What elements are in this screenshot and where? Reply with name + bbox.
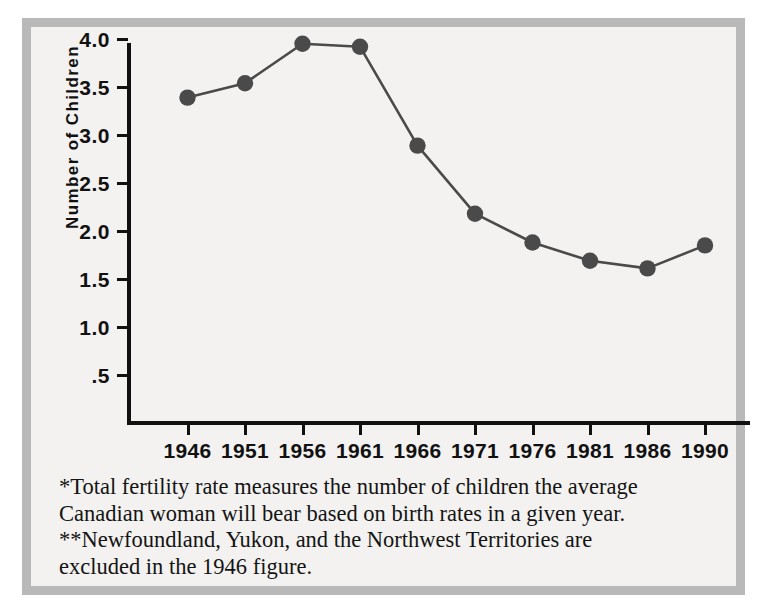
data-point-marker [179, 89, 195, 105]
footnote-line-4: excluded in the 1946 figure. [59, 554, 719, 581]
footnote-line-1: *Total fertility rate measures the numbe… [59, 474, 719, 501]
data-point-marker [237, 75, 253, 91]
data-point-marker [352, 39, 368, 55]
footnote-block: *Total fertility rate measures the numbe… [59, 474, 719, 580]
series-markers [179, 36, 713, 277]
data-point-marker [524, 234, 540, 250]
figure-frame: Number of Children 4.03.53.02.52.01.51.0… [22, 18, 745, 595]
data-point-marker [467, 206, 483, 222]
chart-page: Number of Children 4.03.53.02.52.01.51.0… [0, 0, 768, 613]
data-point-marker [294, 36, 310, 52]
figure-canvas: Number of Children 4.03.53.02.52.01.51.0… [31, 27, 736, 586]
data-point-marker [697, 237, 713, 253]
footnote-line-2: Canadian woman will bear based on birth … [59, 501, 719, 528]
footnote-line-3: **Newfoundland, Yukon, and the Northwest… [59, 527, 719, 554]
data-point-marker [639, 260, 655, 276]
data-point-marker [582, 253, 598, 269]
data-point-marker [409, 137, 425, 153]
series-line [188, 44, 706, 269]
